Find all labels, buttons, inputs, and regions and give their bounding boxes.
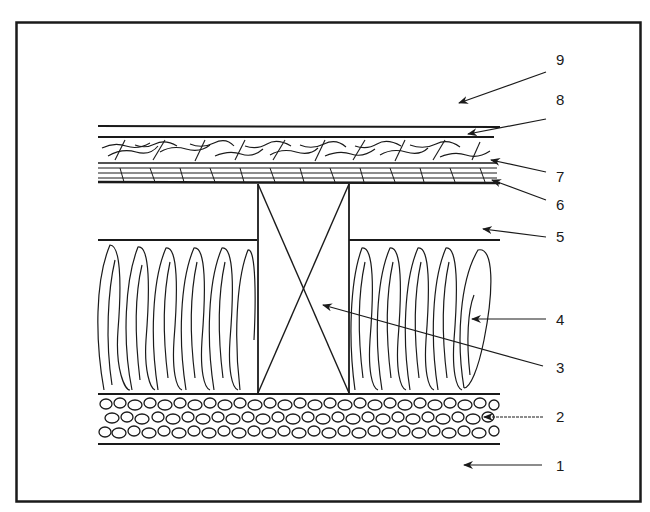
label-5: 5 xyxy=(556,228,564,245)
label-1: 1 xyxy=(556,457,564,474)
arrow-6 xyxy=(492,180,546,200)
arrow-5 xyxy=(483,229,546,237)
label-9: 9 xyxy=(556,51,564,68)
arrow-9 xyxy=(459,72,546,103)
floor-cross-section-diagram: 9 8 7 6 5 4 3 2 1 xyxy=(0,0,650,512)
label-7: 7 xyxy=(556,168,564,185)
label-8: 8 xyxy=(556,91,564,108)
floor-boards xyxy=(98,137,500,183)
label-4: 4 xyxy=(556,311,564,328)
callout-labels: 9 8 7 6 5 4 3 2 1 xyxy=(556,51,564,474)
label-2: 2 xyxy=(556,408,564,425)
top-surface-line xyxy=(98,126,500,127)
arrow-7 xyxy=(491,160,546,172)
timber-joist xyxy=(258,184,349,393)
label-6: 6 xyxy=(556,196,564,213)
label-3: 3 xyxy=(556,359,564,376)
gravel-layer xyxy=(99,398,499,438)
arrow-3 xyxy=(323,305,543,366)
